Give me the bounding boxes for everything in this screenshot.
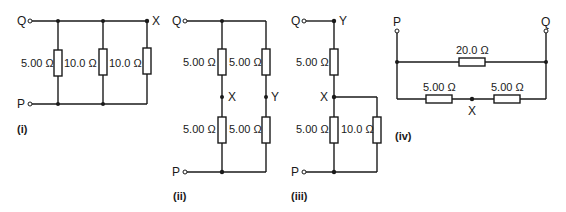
resistor-value: 5.00 Ω bbox=[183, 123, 216, 135]
resistor-iv-2 bbox=[426, 95, 452, 103]
node-label: X bbox=[320, 90, 328, 104]
resistor-value: 5.00 Ω bbox=[296, 56, 329, 68]
resistor-ii-1 bbox=[218, 49, 226, 75]
resistor-ii-2 bbox=[262, 49, 270, 75]
terminal-label: P bbox=[291, 165, 299, 179]
resistor-value: 5.00 Ω bbox=[183, 56, 216, 68]
resistor-value: 20.0 Ω bbox=[456, 44, 489, 56]
terminal-p bbox=[302, 170, 306, 174]
node-label: Y bbox=[271, 90, 279, 104]
resistor-i-1 bbox=[54, 50, 62, 76]
caption: (iv) bbox=[395, 130, 412, 142]
resistor-iv-3 bbox=[494, 95, 520, 103]
terminal-label: Q bbox=[172, 14, 181, 28]
terminal-p bbox=[395, 29, 399, 33]
caption: (i) bbox=[17, 123, 28, 135]
resistor-i-2 bbox=[99, 49, 107, 75]
node-x bbox=[332, 95, 336, 99]
circuit-i: Q P X 5.00 Ω 10.0 Ω 10.0 Ω (i) bbox=[17, 14, 160, 135]
resistor-value: 10.0 Ω bbox=[341, 123, 374, 135]
terminal-label: Q bbox=[17, 14, 26, 28]
resistor-value: 5.00 Ω bbox=[21, 57, 54, 69]
terminal-q bbox=[183, 19, 187, 23]
terminal-label: Q bbox=[541, 15, 550, 29]
terminal-label: P bbox=[172, 165, 180, 179]
terminal-p bbox=[28, 102, 32, 106]
resistor-ii-3 bbox=[218, 117, 226, 143]
caption: (ii) bbox=[173, 190, 187, 202]
node-label: X bbox=[228, 90, 236, 104]
terminal-p bbox=[183, 170, 187, 174]
circuit-iii: Q P Y X 5.00 Ω 5.00 Ω 10.0 Ω (iii) bbox=[291, 14, 381, 202]
terminal-label: Q bbox=[291, 14, 300, 28]
resistor-iii-2 bbox=[330, 117, 338, 143]
resistor-value: 5.00 Ω bbox=[296, 123, 329, 135]
circuit-figure: Q P X 5.00 Ω 10.0 Ω 10.0 Ω (i) Q P X Y 5… bbox=[0, 0, 566, 212]
resistor-value: 5.00 Ω bbox=[423, 81, 456, 93]
resistor-iii-1 bbox=[330, 49, 338, 75]
node-x bbox=[220, 95, 224, 99]
node-y bbox=[332, 19, 336, 23]
node-x bbox=[145, 19, 149, 23]
terminal-q bbox=[28, 19, 32, 23]
circuit-ii: Q P X Y 5.00 Ω 5.00 Ω 5.00 Ω 5.00 Ω (ii) bbox=[172, 14, 279, 202]
node-y bbox=[264, 95, 268, 99]
resistor-value: 5.00 Ω bbox=[229, 56, 262, 68]
resistor-value: 10.0 Ω bbox=[64, 57, 97, 69]
node-label: X bbox=[468, 104, 476, 118]
resistor-value: 5.00 Ω bbox=[229, 123, 262, 135]
terminal-label: P bbox=[17, 97, 25, 111]
resistor-ii-4 bbox=[262, 117, 270, 143]
caption: (iii) bbox=[291, 190, 308, 202]
node-x bbox=[470, 97, 474, 101]
circuit-iv: P Q X 20.0 Ω 5.00 Ω 5.00 Ω (iv) bbox=[393, 15, 550, 142]
resistor-iii-3 bbox=[373, 117, 381, 143]
terminal-q bbox=[544, 29, 548, 33]
node-label: Y bbox=[339, 14, 347, 28]
terminal-label: P bbox=[393, 15, 401, 29]
resistor-value: 10.0 Ω bbox=[109, 57, 142, 69]
resistor-iv-1 bbox=[459, 58, 485, 66]
terminal-q bbox=[302, 19, 306, 23]
resistor-value: 5.00 Ω bbox=[491, 81, 524, 93]
node-label: X bbox=[152, 14, 160, 28]
resistor-i-3 bbox=[143, 48, 151, 74]
